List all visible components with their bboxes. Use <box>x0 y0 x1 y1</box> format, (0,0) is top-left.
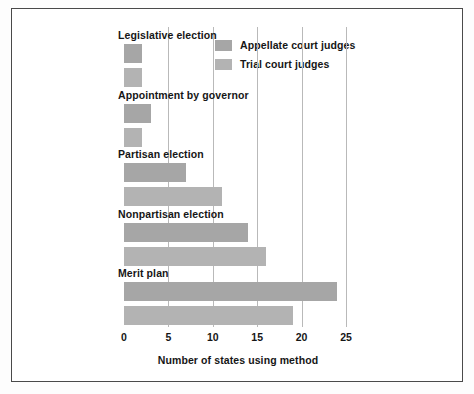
bar-appellate <box>124 282 337 301</box>
category-label: Nonpartisan election <box>118 208 224 220</box>
category-label: Partisan election <box>118 148 204 160</box>
figure-root: Appellate court judgesTrial court judges… <box>0 0 474 394</box>
x-tick-label: 20 <box>287 331 317 343</box>
plot-area: Appellate court judgesTrial court judges… <box>12 9 464 383</box>
x-tick-label: 0 <box>109 331 139 343</box>
bar-group: Merit plan <box>12 267 464 325</box>
category-label: Merit plan <box>118 267 169 279</box>
figure-frame: Appellate court judgesTrial court judges… <box>11 8 463 382</box>
bar-trial <box>124 306 293 325</box>
bar-appellate <box>124 163 186 182</box>
bar-trial <box>124 128 142 147</box>
x-tick-label: 25 <box>331 331 361 343</box>
x-tick-label: 10 <box>198 331 228 343</box>
bar-appellate <box>124 223 248 242</box>
x-tick-label: 15 <box>242 331 272 343</box>
bar-group: Appointment by governor <box>12 89 464 147</box>
category-label: Appointment by governor <box>118 89 249 101</box>
x-axis-title: Number of states using method <box>12 354 464 366</box>
bar-appellate <box>124 44 142 63</box>
x-tick-label: 5 <box>153 331 183 343</box>
category-label: Legislative election <box>118 29 217 41</box>
bar-group: Partisan election <box>12 148 464 206</box>
bar-appellate <box>124 104 151 123</box>
bar-trial <box>124 68 142 87</box>
bar-trial <box>124 187 222 206</box>
bar-group: Nonpartisan election <box>12 208 464 266</box>
bar-trial <box>124 247 266 266</box>
bar-group: Legislative election <box>12 29 464 87</box>
